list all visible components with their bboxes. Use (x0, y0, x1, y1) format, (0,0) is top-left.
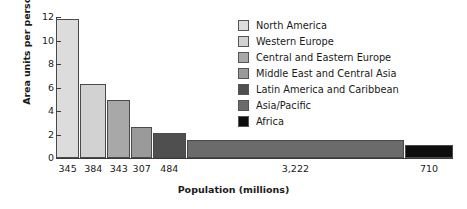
y-tick-label: 10 (36, 36, 54, 46)
y-tick-label: 4 (36, 106, 54, 116)
legend-swatch-icon (238, 116, 249, 127)
legend-item: Africa (238, 113, 463, 129)
y-tick-mark (56, 158, 61, 159)
legend-item: Central and Eastern Europe (238, 49, 463, 65)
legend-item: Middle East and Central Asia (238, 65, 463, 81)
legend-item: North America (238, 17, 463, 33)
bar (80, 84, 106, 158)
legend-item: Asia/Pacific (238, 97, 463, 113)
y-tick-label: 8 (36, 59, 54, 69)
x-tick-label: 3,222 (265, 163, 325, 174)
y-axis-tick-labels: 024681012 (0, 0, 54, 209)
y-tick-label: 6 (36, 83, 54, 93)
y-tick-mark (56, 41, 61, 42)
legend-label: Central and Eastern Europe (256, 52, 391, 63)
legend-label: Latin America and Caribbean (256, 84, 399, 95)
y-tick-label: 12 (36, 12, 54, 22)
bar (131, 127, 152, 158)
bar-chart-figure: Area units per person 024681012 34538434… (0, 0, 467, 209)
x-axis-title: Population (millions) (0, 184, 467, 195)
legend-swatch-icon (238, 52, 249, 63)
legend-label: North America (256, 20, 327, 31)
legend-label: Asia/Pacific (256, 100, 311, 111)
legend-swatch-icon (238, 36, 249, 47)
legend-swatch-icon (238, 68, 249, 79)
y-tick-mark (56, 88, 61, 89)
bar (153, 133, 186, 158)
x-axis-line (56, 158, 453, 159)
bar (405, 145, 453, 158)
legend-swatch-icon (238, 84, 249, 95)
bar (107, 100, 130, 158)
y-tick-mark (56, 111, 61, 112)
y-tick-mark (56, 64, 61, 65)
legend-item: Western Europe (238, 33, 463, 49)
chart-legend: North AmericaWestern EuropeCentral and E… (238, 17, 463, 129)
legend-label: Western Europe (256, 36, 334, 47)
y-tick-mark (56, 135, 61, 136)
legend-swatch-icon (238, 20, 249, 31)
legend-label: Middle East and Central Asia (256, 68, 397, 79)
y-tick-label: 2 (36, 130, 54, 140)
x-tick-label: 484 (139, 163, 199, 174)
bar (187, 140, 404, 158)
legend-swatch-icon (238, 100, 249, 111)
y-tick-mark (56, 17, 61, 18)
y-tick-label: 0 (36, 153, 54, 163)
legend-label: Africa (256, 116, 284, 127)
legend-item: Latin America and Caribbean (238, 81, 463, 97)
x-tick-label: 710 (399, 163, 459, 174)
